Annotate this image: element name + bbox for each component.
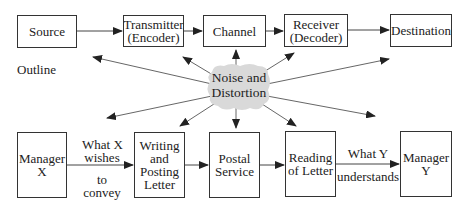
destination-box: Destination (390, 14, 452, 47)
channel-label: Channel (213, 25, 256, 38)
manager-y-label: Manager Y (403, 151, 449, 177)
manager-x-label: Manager X (19, 152, 65, 178)
postal-box: Postal Service (209, 132, 260, 198)
edge-label-wishes: wishes (82, 151, 122, 164)
transmitter-label: Transmitter (Encoder) (123, 18, 183, 44)
manager-x-box: Manager X (17, 132, 67, 198)
writing-label: Writing and Posting Letter (140, 139, 180, 191)
receiver-label: Receiver (Decoder) (290, 18, 343, 44)
writing-box: Writing and Posting Letter (134, 132, 185, 198)
channel-box: Channel (203, 15, 266, 47)
source-label: Source (29, 25, 65, 38)
postal-label: Postal Service (215, 152, 254, 178)
manager-y-box: Manager Y (400, 131, 452, 197)
edge-label-understands: understands (336, 170, 400, 183)
noise-label: Noise and Distortion (208, 70, 270, 100)
transmitter-box: Transmitter (Encoder) (123, 15, 184, 47)
edge-label-what-y: What Y (338, 147, 398, 160)
reading-label: Reading of Letter (288, 151, 333, 177)
receiver-box: Receiver (Decoder) (284, 14, 348, 47)
source-box: Source (17, 15, 77, 48)
edge-label-convey: convey (82, 186, 122, 199)
outline-label: Outline (17, 63, 56, 76)
reading-box: Reading of Letter (285, 131, 336, 197)
destination-label: Destination (391, 24, 451, 37)
